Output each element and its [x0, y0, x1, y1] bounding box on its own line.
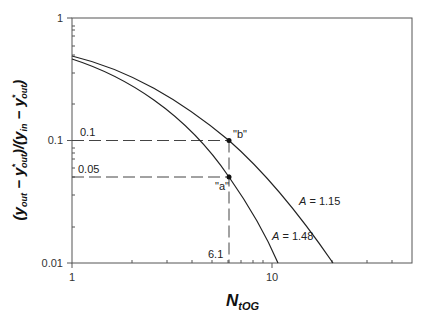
y-tick-label: 0.01: [42, 257, 63, 269]
curve-a-1.48: [72, 59, 278, 263]
point-b-label: "b": [233, 128, 247, 140]
x-ticks: [72, 260, 392, 268]
guide-label-0.05: 0.05: [78, 163, 99, 175]
guide-label-6.1: 6.1: [208, 248, 223, 260]
x-tick-label: 1: [69, 271, 75, 283]
svg-text:(yout − y*out)/(yin − y*out): (yout − y*out)/(yin − y*out): [10, 80, 29, 221]
chart: 1 0.1 0.01 1 10 0.1 0.05 6.1 "b" "a" A =…: [0, 0, 427, 325]
curve-label-1.48: A = 1.48: [271, 230, 313, 242]
point-a: [227, 175, 232, 180]
guide-lines: [72, 141, 229, 264]
x-tick-label: 10: [266, 271, 278, 283]
guide-label-0.1: 0.1: [80, 126, 95, 138]
curve-label-1.15: A = 1.15: [298, 195, 340, 207]
point-a-label: "a": [215, 180, 229, 192]
point-b: [227, 138, 232, 143]
y-tick-label: 1: [57, 12, 63, 24]
x-axis-title: NtOG: [226, 291, 260, 312]
y-axis-title: (yout − y*out)/(yin − y*out): [10, 80, 29, 221]
y-tick-label: 0.1: [48, 134, 63, 146]
